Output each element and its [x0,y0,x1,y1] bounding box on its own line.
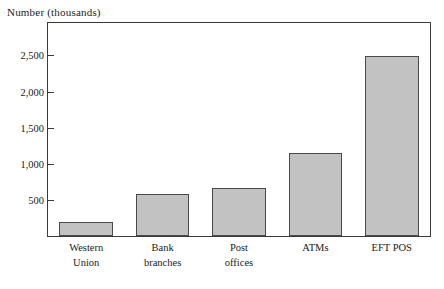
x-axis-label-line: Post [201,240,277,255]
x-axis-category-labels: WesternUnionBankbranchesPostofficesATMsE… [48,240,430,286]
y-axis-tick-mark [47,164,54,165]
x-axis-label-eft-pos: EFT POS [354,240,430,255]
y-axis-tick-label: 2,500 [4,50,44,61]
x-axis-label-western-union: WesternUnion [48,240,124,270]
bar-western-union [59,222,112,236]
y-axis-tick-mark [47,128,54,129]
x-axis-label-line: branches [124,255,200,270]
x-axis-label-line: Union [48,255,124,270]
bar-post-offices [212,188,265,236]
y-axis-tick-labels: 5001,0001,5002,0002,500 [0,0,44,289]
x-axis-label-line: Western [48,240,124,255]
bar-atms [289,153,342,236]
bar-eft-pos [365,56,418,237]
y-axis-tick-label: 1,000 [4,158,44,169]
y-axis-tick-mark [47,200,54,201]
y-axis-tick-mark [47,92,54,93]
y-axis-tick-label: 2,000 [4,86,44,97]
bar-bank-branches [136,194,189,236]
x-axis-label-line: Bank [124,240,200,255]
x-axis-label-atms: ATMs [277,240,353,255]
y-axis-tick-mark [47,55,54,56]
x-axis-label-post-offices: Postoffices [201,240,277,270]
x-axis-label-bank-branches: Bankbranches [124,240,200,270]
y-axis-tick-label: 1,500 [4,122,44,133]
x-axis-label-line: ATMs [277,240,353,255]
x-axis-label-line: EFT POS [354,240,430,255]
bars-layer [48,23,430,236]
x-axis-label-line: offices [201,255,277,270]
bar-chart: Number (thousands) 5001,0001,5002,0002,5… [0,0,444,289]
y-axis-tick-label: 500 [4,194,44,205]
